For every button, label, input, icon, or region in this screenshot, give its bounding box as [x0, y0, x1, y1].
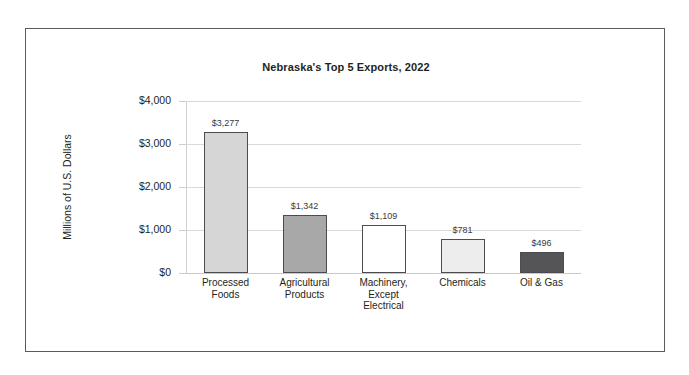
bar[interactable]	[204, 132, 248, 273]
bar-value-label: $496	[504, 239, 580, 248]
y-axis-tick-label-wrap: $3,000	[111, 138, 171, 150]
x-axis-category-label: Machinery,ExceptElectrical	[338, 277, 429, 312]
bar[interactable]	[441, 239, 485, 273]
y-axis-tick	[179, 144, 186, 145]
x-axis-category-label-line: Products	[259, 289, 350, 301]
y-axis-tick-label-wrap: $2,000	[111, 181, 171, 193]
bar-value-label: $1,109	[346, 212, 422, 221]
y-axis-tick-label: $0	[111, 267, 171, 278]
bar[interactable]	[283, 215, 327, 273]
x-axis-category-label-line: Processed	[180, 277, 271, 289]
gridline	[186, 273, 581, 274]
chart-title: Nebraska's Top 5 Exports, 2022	[26, 61, 666, 73]
y-axis-tick	[179, 101, 186, 102]
y-axis-tick-label: $3,000	[111, 138, 171, 149]
bar[interactable]	[520, 252, 564, 273]
x-axis-category-label-line: Foods	[180, 289, 271, 301]
x-axis-category-label-line: Machinery,	[338, 277, 429, 289]
y-axis-tick	[179, 187, 186, 188]
y-axis-tick	[179, 230, 186, 231]
plot-area: $3,277$1,342$1,109$781$496	[186, 101, 581, 273]
x-axis-category-label-line: Chemicals	[417, 277, 508, 289]
x-axis-category-label-line: Agricultural	[259, 277, 350, 289]
y-axis-title: Millions of U.S. Dollars	[61, 97, 73, 277]
x-axis-category-label-line: Oil & Gas	[496, 277, 587, 289]
y-axis-tick	[179, 273, 186, 274]
chart-frame: Nebraska's Top 5 Exports, 2022 Millions …	[25, 28, 665, 352]
y-axis-tick-label: $1,000	[111, 224, 171, 235]
y-axis-tick-label-wrap: $0	[111, 267, 171, 279]
x-axis-category-label: ProcessedFoods	[180, 277, 271, 300]
y-axis-tick-label-wrap: $1,000	[111, 224, 171, 236]
y-axis-tick-label: $2,000	[111, 181, 171, 192]
gridline	[186, 101, 581, 102]
y-axis-tick-label-wrap: $4,000	[111, 95, 171, 107]
bar-value-label: $3,277	[188, 119, 264, 128]
y-axis-tick-label: $4,000	[111, 95, 171, 106]
x-axis-category-label: AgriculturalProducts	[259, 277, 350, 300]
x-axis-category-label-line: Electrical	[338, 300, 429, 312]
bar-value-label: $1,342	[267, 202, 343, 211]
bar[interactable]	[362, 225, 406, 273]
bar-value-label: $781	[425, 226, 501, 235]
x-axis-category-label: Oil & Gas	[496, 277, 587, 289]
x-axis-category-label: Chemicals	[417, 277, 508, 289]
x-axis-category-label-line: Except	[338, 289, 429, 301]
